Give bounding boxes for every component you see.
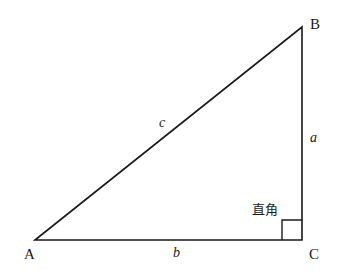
side-label-c: c bbox=[159, 116, 165, 130]
vertex-label-a: A bbox=[24, 247, 35, 262]
right-angle-marker bbox=[282, 220, 302, 240]
side-label-b: b bbox=[173, 246, 180, 260]
side-label-a: a bbox=[310, 131, 317, 145]
right-triangle-diagram bbox=[0, 0, 347, 275]
vertex-label-b: B bbox=[310, 17, 320, 32]
vertex-label-c: C bbox=[309, 247, 319, 262]
right-angle-label: 直角 bbox=[252, 203, 278, 216]
